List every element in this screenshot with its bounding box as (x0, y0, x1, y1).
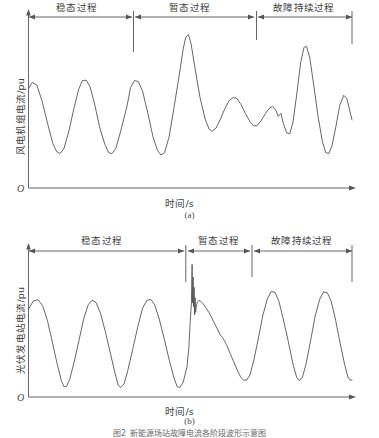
x-axis-label-a: 时间/s (165, 196, 194, 210)
waveform-a (29, 35, 353, 155)
subfigure-label-a: (a) (0, 210, 379, 220)
waveform-b (29, 264, 353, 387)
origin-label-b: O (17, 392, 24, 403)
chart-panel-a: 稳态过程 暂态过程 故障持续过程 风电机组电流/pu O 时间/s (a) (0, 0, 379, 222)
phase-label-steady-a: 稳态过程 (56, 3, 97, 13)
panel-b-svg (0, 222, 379, 433)
origin-label-a: O (17, 183, 24, 194)
axes-b (26, 243, 356, 399)
chart-panel-b: 稳态过程 暂态过程 故障持续过程 光伏发电站电流/pu O 时间/s (b) (0, 222, 379, 433)
phase-label-fault-b: 故障持续过程 (271, 236, 333, 246)
y-axis-label-b: 光伏发电站电流/pu (13, 287, 27, 374)
phase-label-steady-b: 稳态过程 (81, 236, 122, 246)
subfigure-label-b: (b) (0, 416, 379, 426)
phase-label-transient-a: 暂态过程 (169, 3, 210, 13)
y-axis-label-a: 风电机组电流/pu (13, 78, 27, 155)
phase-label-transient-b: 暂态过程 (198, 236, 239, 246)
panel-a-svg (0, 0, 379, 222)
figure-caption-text: 新能源场站故障电流各阶段波形示意图 (130, 429, 266, 438)
figure-caption: 图2新能源场站故障电流各阶段波形示意图 (0, 427, 379, 438)
figure-caption-number: 图2 (113, 429, 126, 438)
phase-label-fault-a: 故障持续过程 (273, 3, 335, 13)
